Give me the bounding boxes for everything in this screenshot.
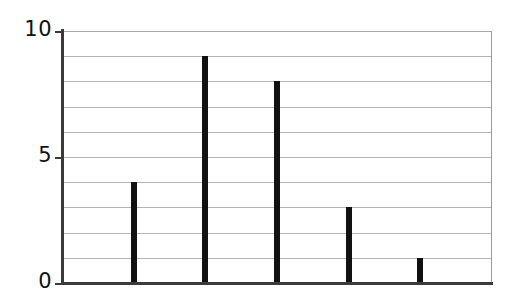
y-axis-label-group: 0510 xyxy=(0,0,52,308)
y-tick-label-5: 5 xyxy=(38,145,52,166)
bar-1 xyxy=(131,182,137,284)
bar-chart: 0510 xyxy=(0,0,511,308)
bar-2 xyxy=(202,56,208,284)
y-tick-label-10: 10 xyxy=(24,19,52,40)
y-tick-mark-0 xyxy=(55,283,62,285)
y-tick-mark-5 xyxy=(55,157,62,159)
bar-3 xyxy=(274,81,280,284)
bar-4 xyxy=(346,207,352,284)
y-tick-mark-10 xyxy=(55,31,62,33)
y-tick-label-0: 0 xyxy=(38,271,52,292)
gridline-10 xyxy=(62,31,492,32)
x-axis-line xyxy=(61,282,493,285)
plot-area xyxy=(62,31,492,283)
gridline-9 xyxy=(62,56,492,57)
bar-5 xyxy=(417,258,423,284)
plot-right-border xyxy=(491,31,492,283)
